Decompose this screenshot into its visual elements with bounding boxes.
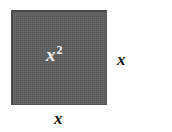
area-label-base: x: [46, 44, 56, 65]
area-label-exponent: 2: [57, 43, 63, 57]
bottom-side-length-label: x: [54, 110, 63, 127]
square-area-figure: x2 x x: [0, 0, 172, 132]
area-label-x-squared: x2: [46, 44, 63, 64]
right-side-length-label: x: [117, 51, 126, 68]
